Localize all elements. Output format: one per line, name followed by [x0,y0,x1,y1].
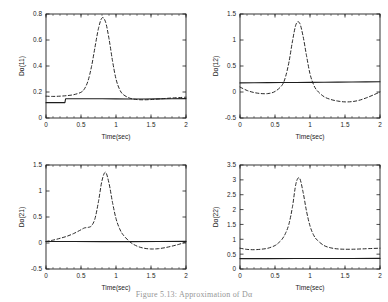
svg-text:1.5: 1.5 [33,161,42,168]
svg-text:0.5: 0.5 [271,272,280,279]
svg-text:0.4: 0.4 [33,62,42,69]
svg-text:Dα(22): Dα(22) [212,207,220,227]
svg-text:Dα(11): Dα(11) [18,56,26,76]
svg-text:0.5: 0.5 [77,121,86,128]
svg-text:0.2: 0.2 [33,88,42,95]
subplot-svg-panel-11: 00.511.5200.20.40.60.8Time(sec)Dα(11) [0,0,194,151]
svg-text:0.6: 0.6 [33,36,42,43]
svg-text:1: 1 [38,187,42,194]
svg-text:1.5: 1.5 [341,272,350,279]
svg-text:0: 0 [232,265,236,272]
svg-text:1.5: 1.5 [227,221,236,228]
svg-text:2: 2 [232,206,236,213]
svg-text:1.5: 1.5 [147,272,156,279]
svg-text:-0.5: -0.5 [225,114,236,121]
svg-text:2: 2 [184,121,188,128]
subplot-svg-panel-22: 00.511.5200.511.522.533.5Time(sec)Dα(22) [194,151,388,302]
subplot-panel-12: 00.511.52-0.500.511.5Time(sec)Dα(12) [194,0,388,151]
svg-text:0: 0 [38,239,42,246]
svg-text:2: 2 [184,272,188,279]
svg-text:1.5: 1.5 [147,121,156,128]
subplot-panel-22: 00.511.5200.511.522.533.5Time(sec)Dα(22) [194,151,388,302]
svg-text:-0.5: -0.5 [31,265,42,272]
subplot-svg-panel-21: 00.511.52-0.500.511.5Time(sec)Dα(21) [0,151,194,302]
svg-text:0.8: 0.8 [33,10,42,17]
subplot-panel-21: 00.511.52-0.500.511.5Time(sec)Dα(21) [0,151,194,302]
svg-text:2: 2 [378,121,382,128]
svg-text:1.5: 1.5 [227,10,236,17]
svg-text:Time(sec): Time(sec) [295,133,324,141]
subplot-grid: 00.511.5200.20.40.60.8Time(sec)Dα(11) 00… [0,0,388,286]
figure-container: 00.511.5200.20.40.60.8Time(sec)Dα(11) 00… [0,0,388,302]
svg-text:0: 0 [238,272,242,279]
svg-text:0: 0 [238,121,242,128]
svg-text:0: 0 [44,272,48,279]
svg-text:0.5: 0.5 [77,272,86,279]
svg-text:Time(sec): Time(sec) [101,133,130,141]
svg-text:2.5: 2.5 [227,191,236,198]
svg-text:Dα(21): Dα(21) [18,207,26,227]
svg-text:1.5: 1.5 [341,121,350,128]
svg-text:0: 0 [44,121,48,128]
svg-text:0.5: 0.5 [271,121,280,128]
subplot-svg-panel-12: 00.511.52-0.500.511.5Time(sec)Dα(12) [194,0,388,151]
subplot-panel-11: 00.511.5200.20.40.60.8Time(sec)Dα(11) [0,0,194,151]
svg-text:1: 1 [308,272,312,279]
svg-text:0: 0 [232,88,236,95]
svg-text:0.5: 0.5 [227,251,236,258]
svg-text:1: 1 [114,121,118,128]
svg-text:0: 0 [38,114,42,121]
svg-text:3: 3 [232,176,236,183]
svg-text:0.5: 0.5 [33,213,42,220]
figure-caption: Figure 5.13: Approximation of Dα [0,288,388,302]
svg-text:1: 1 [114,272,118,279]
svg-text:Dα(12): Dα(12) [212,56,220,76]
svg-text:3.5: 3.5 [227,161,236,168]
svg-text:1: 1 [308,121,312,128]
svg-text:2: 2 [378,272,382,279]
svg-text:0.5: 0.5 [227,62,236,69]
svg-text:1: 1 [232,36,236,43]
svg-text:1: 1 [232,236,236,243]
